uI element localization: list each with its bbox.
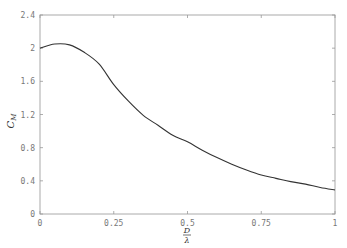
x-tick-label: 0.75 — [252, 219, 271, 228]
y-tick-label: 0.4 — [21, 177, 36, 186]
data-series — [40, 44, 335, 190]
svg-text:D: D — [183, 226, 191, 235]
plot-frame — [40, 15, 335, 214]
series-line — [40, 44, 335, 190]
x-tick-label: 0.25 — [104, 219, 123, 228]
y-tick-label: 2.4 — [21, 11, 36, 20]
y-tick-label: 1.6 — [21, 77, 36, 86]
y-tick-label: 2 — [30, 44, 35, 53]
svg-text:λ: λ — [183, 236, 189, 245]
y-axis-label: CM — [5, 113, 18, 129]
y-tick-label: 1.2 — [21, 111, 36, 120]
svg-text:CM: CM — [5, 113, 18, 129]
y-axis-ticks: 00.40.81.21.622.4 — [21, 11, 335, 219]
y-tick-label: 0 — [30, 210, 35, 219]
x-tick-label: 0 — [38, 219, 43, 228]
x-axis-ticks: 00.250.50.751 — [38, 15, 338, 228]
plot-axes — [40, 15, 335, 214]
x-tick-label: 1 — [333, 219, 338, 228]
y-tick-label: 0.8 — [21, 144, 36, 153]
line-chart: 00.250.50.751 00.40.81.21.622.4 CM D λ — [0, 0, 347, 248]
x-axis-label: D λ — [183, 226, 191, 245]
